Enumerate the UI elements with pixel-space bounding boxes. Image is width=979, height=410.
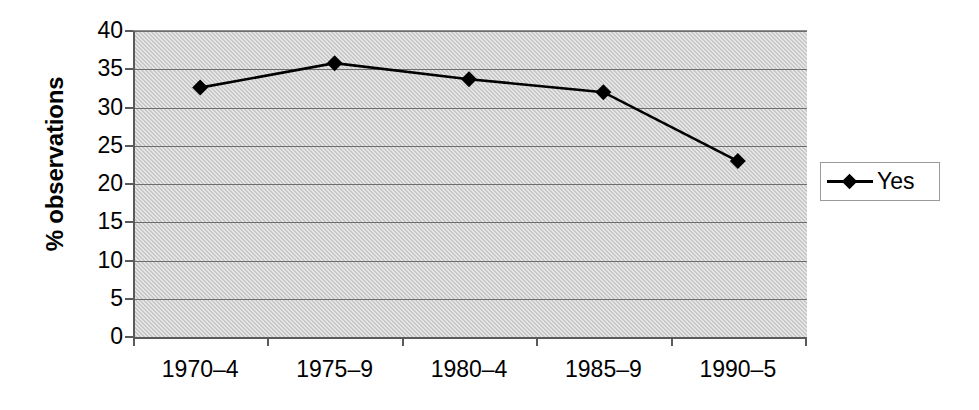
y-axis-tick-label: 5 xyxy=(79,287,123,310)
y-axis-tick-mark xyxy=(125,145,133,147)
x-axis-tick-mark xyxy=(402,337,404,346)
y-axis-tick-mark xyxy=(125,221,133,223)
x-axis-tick-mark xyxy=(671,337,673,346)
gridline xyxy=(135,222,807,223)
diamond-marker-icon xyxy=(841,174,857,190)
y-axis-tick-mark xyxy=(125,107,133,109)
y-axis-tick-label: 35 xyxy=(79,57,123,80)
y-axis-title: % observations xyxy=(41,14,69,314)
gridline xyxy=(135,31,807,32)
y-axis-tick-label: 30 xyxy=(79,96,123,119)
y-axis-tick-mark xyxy=(125,260,133,262)
gridline xyxy=(135,69,807,70)
y-axis-tick-label: 25 xyxy=(79,134,123,157)
y-axis-tick-mark xyxy=(125,183,133,185)
x-axis-tick-mark xyxy=(267,337,269,346)
gridline xyxy=(135,108,807,109)
legend-item-yes: Yes xyxy=(821,163,939,200)
y-axis-tick-label: 40 xyxy=(79,19,123,42)
legend-label-yes: Yes xyxy=(877,170,915,193)
y-axis-tick-label: 10 xyxy=(79,249,123,272)
y-axis-tick-mark xyxy=(125,68,133,70)
y-axis-tick-mark xyxy=(125,30,133,32)
legend-marker-yes xyxy=(821,163,877,200)
y-axis-tick-labels: 0510152025303540 xyxy=(79,0,123,410)
legend: Yes xyxy=(820,162,940,201)
x-axis-tick-mark xyxy=(805,337,807,346)
x-axis-tick-mark xyxy=(133,337,135,346)
y-axis-tick-label: 15 xyxy=(79,210,123,233)
gridline xyxy=(135,299,807,300)
plot-area xyxy=(133,31,807,339)
gridline xyxy=(135,146,807,147)
x-axis-tick-mark xyxy=(536,337,538,346)
line-chart: % observations 0510152025303540 1970–419… xyxy=(0,0,979,410)
y-axis-tick-mark xyxy=(125,298,133,300)
y-axis-tick-label: 0 xyxy=(79,325,123,348)
y-axis-tick-label: 20 xyxy=(79,172,123,195)
y-axis-tick-mark xyxy=(125,336,133,338)
x-axis-tick-label: 1990–5 xyxy=(658,357,818,381)
gridline xyxy=(135,261,807,262)
gridline xyxy=(135,184,807,185)
